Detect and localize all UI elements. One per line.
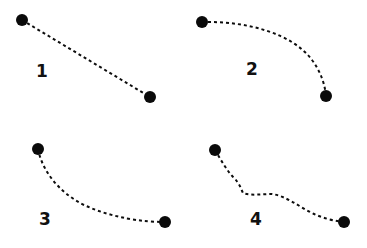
start-marker-2 <box>196 16 208 28</box>
panel-label-1: 1 <box>36 61 48 81</box>
start-marker-3 <box>32 143 44 155</box>
start-marker-4 <box>209 144 221 156</box>
panel-label-3: 3 <box>39 209 51 229</box>
four-panel-trajectory-figure: 1 2 3 4 <box>0 0 367 248</box>
end-marker-4 <box>338 216 350 228</box>
end-marker-3 <box>159 216 171 228</box>
panel-label-2: 2 <box>246 59 258 79</box>
end-marker-1 <box>144 91 156 103</box>
figure-background <box>0 0 367 248</box>
panel-label-4: 4 <box>250 209 262 229</box>
end-marker-2 <box>320 90 332 102</box>
figure-canvas: 1 2 3 4 <box>0 0 367 248</box>
start-marker-1 <box>16 14 28 26</box>
